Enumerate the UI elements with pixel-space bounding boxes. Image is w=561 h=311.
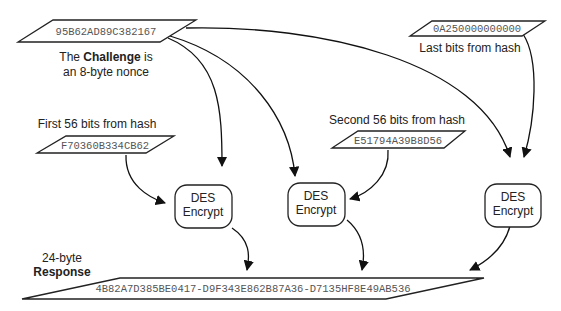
des-box-3-line1: DES — [501, 190, 526, 204]
hash-last-value: 0A250000000000 — [433, 23, 521, 35]
hash-part-second: Second 56 bits from hash E51794A39B8D56 — [329, 113, 465, 148]
edge-hash3-to-des3 — [523, 34, 534, 157]
challenge-caption-line2: an 8-byte nonce — [63, 65, 149, 79]
response-size-label: 24-byte — [42, 251, 82, 265]
hash-second-value: E51794A39B8D56 — [354, 135, 442, 147]
des-box-3: DES Encrypt — [485, 184, 541, 227]
challenge-value: 95B62AD89C382167 — [56, 26, 157, 38]
edge-des3-to-response — [470, 226, 510, 270]
edge-des2-to-response — [347, 220, 363, 270]
des-box-2-line2: Encrypt — [296, 203, 337, 217]
response-node: 24-byte Response 4B82A7D385BE0417-D9F343… — [22, 251, 484, 299]
edge-challenge-to-des1 — [168, 38, 222, 166]
des-box-3-line2: Encrypt — [493, 204, 534, 218]
hash-part-first: First 56 bits from hash F70360B334CB62 — [37, 117, 174, 153]
hash-first-label: First 56 bits from hash — [38, 117, 157, 131]
des-box-1-line1: DES — [191, 191, 216, 205]
challenge-response-diagram: 95B62AD89C382167 The Challenge is an 8-b… — [0, 0, 561, 311]
response-value: 4B82A7D385BE0417-D9F343E862B87A36-D7135H… — [95, 283, 410, 295]
edge-challenge-to-des2 — [170, 36, 295, 176]
hash-last-label: Last bits from hash — [419, 41, 520, 55]
challenge-caption: The Challenge is — [59, 50, 152, 64]
hash-first-value: F70360B334CB62 — [61, 140, 149, 152]
edge-hash1-to-des1 — [126, 155, 165, 203]
edge-des1-to-response — [232, 228, 248, 270]
des-box-2-line1: DES — [304, 189, 329, 203]
des-box-1: DES Encrypt — [175, 185, 232, 228]
edge-hash2-to-des2 — [350, 150, 388, 199]
hash-second-label: Second 56 bits from hash — [329, 113, 465, 127]
des-box-1-line2: Encrypt — [183, 205, 224, 219]
edges — [126, 28, 534, 270]
des-box-2: DES Encrypt — [288, 183, 345, 226]
challenge-node: 95B62AD89C382167 The Challenge is an 8-b… — [18, 20, 196, 79]
response-label: Response — [33, 265, 91, 279]
